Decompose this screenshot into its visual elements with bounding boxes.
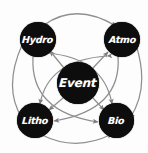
- node-bio-label: Bio: [108, 116, 125, 126]
- node-litho[interactable]: Litho: [17, 103, 53, 138]
- diagram-canvas: Hydro Atmo Litho Bio Event: [0, 0, 148, 153]
- node-event[interactable]: Event: [57, 62, 99, 104]
- node-hydro[interactable]: Hydro: [20, 22, 56, 57]
- node-atmo[interactable]: Atmo: [104, 22, 140, 57]
- node-bio[interactable]: Bio: [99, 103, 134, 138]
- node-hydro-label: Hydro: [22, 35, 54, 45]
- node-atmo-label: Atmo: [108, 35, 136, 45]
- node-event-label: Event: [59, 77, 97, 89]
- edge-event-atmo: [93, 52, 108, 68]
- edge-atmo-bio: [130, 45, 142, 118]
- edge-hydro-atmo: [44, 14, 116, 26]
- edge-litho-bio: [42, 134, 112, 143]
- node-litho-label: Litho: [22, 116, 49, 126]
- edge-hydro-litho: [13, 45, 23, 118]
